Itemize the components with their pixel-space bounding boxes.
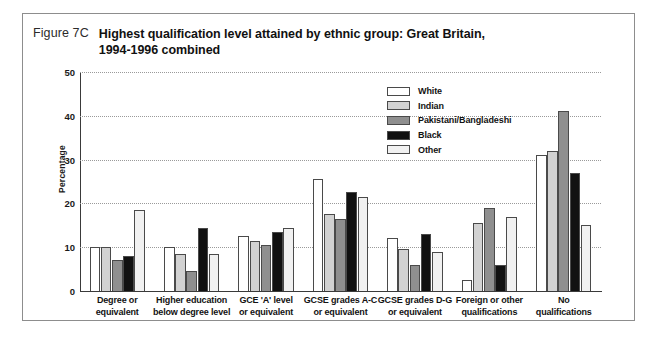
bar-group	[229, 72, 303, 291]
bar[interactable]	[432, 252, 443, 291]
bar[interactable]	[238, 236, 249, 291]
y-tick-50: 50	[49, 67, 75, 78]
legend-item[interactable]: Indian	[387, 99, 552, 114]
x-axis-category-label: Degree orequivalent	[77, 295, 157, 318]
legend-item[interactable]: Pakistani/Bangladeshi	[387, 113, 552, 128]
category-label-line: Degree or	[77, 295, 157, 307]
y-tick-20: 20	[49, 198, 75, 209]
category-label-line: GCSE grades D-G	[375, 295, 455, 307]
bar[interactable]	[164, 247, 175, 291]
figure-title-block: Figure 7C Highest qualification level at…	[33, 26, 624, 58]
bar[interactable]	[313, 179, 324, 291]
bar[interactable]	[261, 245, 272, 291]
bar[interactable]	[112, 260, 123, 291]
y-tick-40: 40	[49, 110, 75, 121]
bar-group	[80, 72, 154, 291]
bar[interactable]	[101, 247, 112, 291]
bar[interactable]	[335, 219, 346, 291]
bar[interactable]	[198, 228, 209, 292]
legend-swatch-icon	[387, 87, 410, 96]
legend-label: White	[418, 86, 442, 96]
legend-item[interactable]: Other	[387, 142, 552, 157]
bar[interactable]	[398, 249, 409, 291]
bar[interactable]	[421, 234, 432, 291]
figure-frame: Figure 7C Highest qualification level at…	[22, 13, 635, 321]
legend-swatch-icon	[387, 101, 410, 110]
bar[interactable]	[536, 155, 547, 291]
figure-title-line-2: 1994-1996 combined	[99, 42, 485, 58]
x-axis-category-labels: Degree orequivalentHigher educationbelow…	[80, 295, 602, 321]
category-label-line: or equivalent	[226, 307, 306, 319]
bar-group	[154, 72, 228, 291]
bar[interactable]	[134, 210, 145, 291]
bar[interactable]	[272, 232, 283, 291]
bar[interactable]	[547, 151, 558, 291]
legend-swatch-icon	[387, 116, 410, 125]
legend-swatch-icon	[387, 145, 410, 154]
y-tick-30: 30	[49, 154, 75, 165]
category-label-line: GCSE grades A-C	[300, 295, 380, 307]
category-label-line: Higher education	[151, 295, 231, 307]
bar-group	[303, 72, 377, 291]
chart-legend: WhiteIndianPakistani/BangladeshiBlackOth…	[387, 84, 552, 157]
bar[interactable]	[123, 256, 134, 291]
bar[interactable]	[462, 280, 473, 291]
bar[interactable]	[581, 225, 592, 291]
x-axis-category-label: GCE 'A' levelor equivalent	[226, 295, 306, 318]
legend-label: Other	[418, 145, 442, 155]
y-tick-0: 0	[49, 286, 75, 297]
x-axis-category-label: GCSE grades A-Cor equivalent	[300, 295, 380, 318]
bar[interactable]	[90, 247, 101, 291]
bar[interactable]	[186, 271, 197, 291]
figure-title-line-1: Highest qualification level attained by …	[99, 26, 485, 42]
category-label-line: or equivalent	[375, 307, 455, 319]
legend-label: Black	[418, 130, 442, 140]
bar[interactable]	[558, 111, 569, 291]
bar[interactable]	[484, 208, 495, 291]
bar[interactable]	[175, 254, 186, 291]
bar[interactable]	[324, 214, 335, 291]
figure-number: Figure 7C	[33, 26, 89, 40]
legend-swatch-icon	[387, 131, 410, 140]
category-label-line: equivalent	[77, 307, 157, 319]
x-axis-category-label: GCSE grades D-Gor equivalent	[375, 295, 455, 318]
bar[interactable]	[209, 254, 220, 291]
y-axis-tick-labels: 01020304050	[45, 72, 75, 291]
legend-item[interactable]: Black	[387, 128, 552, 143]
bar[interactable]	[473, 223, 484, 291]
y-tick-10: 10	[49, 242, 75, 253]
category-label-line: qualifications	[449, 307, 529, 319]
bar[interactable]	[283, 228, 294, 292]
category-label-line: qualifications	[524, 307, 604, 319]
bar[interactable]	[570, 173, 581, 291]
category-label-line: below degree level	[151, 307, 231, 319]
x-axis-category-label: Foreign or otherqualifications	[449, 295, 529, 318]
bar[interactable]	[358, 197, 369, 291]
legend-label: Pakistani/Bangladeshi	[418, 115, 511, 125]
category-label-line: No	[524, 295, 604, 307]
category-label-line: GCE 'A' level	[226, 295, 306, 307]
legend-label: Indian	[418, 101, 444, 111]
x-axis-line	[80, 291, 602, 292]
x-axis-category-label: Noqualifications	[524, 295, 604, 318]
x-axis-category-label: Higher educationbelow degree level	[151, 295, 231, 318]
category-label-line: or equivalent	[300, 307, 380, 319]
bar[interactable]	[346, 192, 357, 291]
bar[interactable]	[410, 265, 421, 291]
legend-item[interactable]: White	[387, 84, 552, 99]
bar[interactable]	[506, 217, 517, 291]
bar[interactable]	[495, 265, 506, 291]
bar[interactable]	[250, 241, 261, 291]
figure-title: Highest qualification level attained by …	[99, 26, 485, 58]
category-label-line: Foreign or other	[449, 295, 529, 307]
bar[interactable]	[387, 238, 398, 291]
